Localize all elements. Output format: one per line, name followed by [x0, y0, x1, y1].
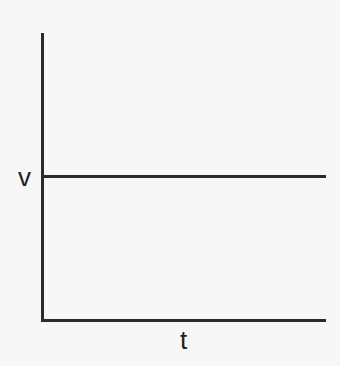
- x-axis-label: t: [180, 327, 187, 353]
- x-axis: [41, 319, 326, 322]
- y-level-label: v: [18, 164, 31, 190]
- constant-velocity-line: [42, 175, 326, 178]
